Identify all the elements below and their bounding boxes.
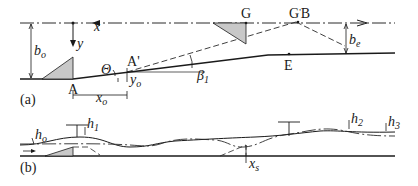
point-G-dot: [245, 22, 248, 25]
b-o-label: bo: [34, 43, 46, 60]
wall-projection: [73, 147, 100, 155]
y-o-label: yo: [128, 72, 141, 89]
theta-label: Θ: [101, 62, 111, 77]
flow-arrow-icon: [31, 149, 36, 153]
y-axis-arrow-icon: [70, 40, 76, 47]
point-G-prime-B-label: G'B: [289, 6, 310, 21]
h-2-label: h2: [351, 111, 363, 128]
theta-angle-arc: [113, 70, 115, 76]
panel-b-label: (b): [20, 160, 37, 176]
h-1-label: h1: [87, 116, 99, 133]
channel-contraction-diagram: x y bo be A A' G G'B E Θ yo xo β1 (a): [0, 0, 418, 186]
x-axis-label: x: [93, 19, 101, 34]
water-surface-wall: [20, 129, 395, 147]
panel-a-label: (a): [20, 92, 36, 108]
panel-b: ho h1 h2 h3 xs (b): [20, 111, 400, 176]
point-E-label: E: [284, 58, 293, 73]
beta-1-label: β1: [196, 68, 209, 85]
point-GB-dot: [297, 21, 300, 24]
panel-a: x y bo be A A' G G'B E Θ yo xo β1 (a): [20, 6, 395, 108]
b-e-label: be: [349, 32, 361, 49]
beta-angle-arc: [190, 55, 192, 68]
x-o-label: xo: [95, 90, 107, 107]
wedge-A: [42, 57, 73, 79]
h-o-arrow: [32, 138, 34, 144]
reflected-shock-line: [296, 22, 345, 46]
point-E-dot: [288, 53, 291, 56]
y-axis-label: y: [75, 36, 84, 51]
point-A-prime-label: A': [127, 54, 140, 69]
shock-line: [127, 22, 296, 72]
wedge-b: [45, 147, 73, 156]
x-s-label: xs: [248, 156, 259, 173]
point-A-label: A: [68, 82, 79, 97]
wedge-G: [213, 23, 246, 44]
h-3-label: h3: [388, 114, 400, 131]
point-G-label: G: [241, 6, 251, 21]
water-surface-centerline: [20, 131, 395, 147]
h-o-label: ho: [35, 127, 47, 144]
